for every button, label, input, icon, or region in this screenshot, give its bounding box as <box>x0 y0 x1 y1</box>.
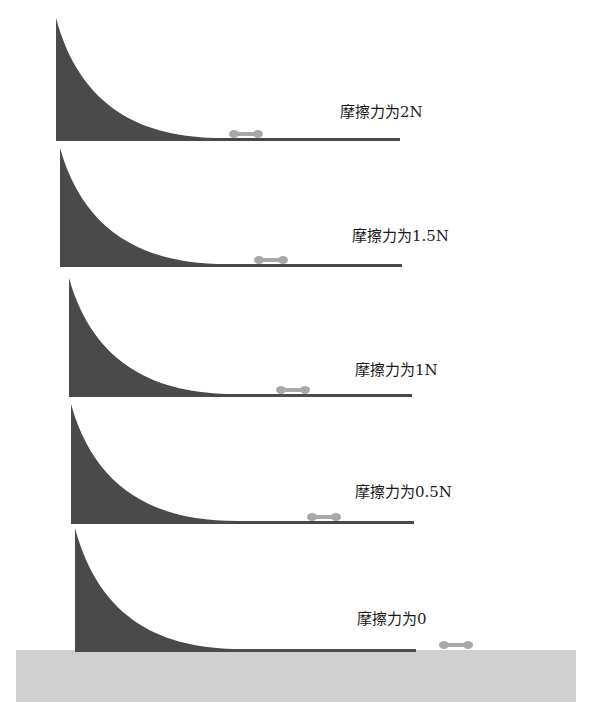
friction-label-0-5n: 摩擦力为0.5N <box>355 480 452 501</box>
car-wheel <box>229 130 239 138</box>
ramp-2 <box>69 278 412 397</box>
car-wheel <box>439 641 449 649</box>
car-wheel <box>307 513 317 521</box>
ramp-3 <box>71 404 414 524</box>
car-wheel <box>331 513 341 521</box>
ground-surface <box>16 650 576 702</box>
ramp-4 <box>75 528 416 652</box>
car-wheel <box>278 256 288 264</box>
ramp-0 <box>56 18 400 141</box>
car-wheel <box>276 386 286 394</box>
friction-label-1n: 摩擦力为1N <box>355 358 438 379</box>
ramp-1 <box>60 148 402 267</box>
car-wheel <box>254 256 264 264</box>
car-wheel <box>463 641 473 649</box>
friction-label-1-5n: 摩擦力为1.5N <box>352 224 449 245</box>
ramp-diagram <box>0 0 596 720</box>
car-wheel <box>300 386 310 394</box>
friction-label-2n: 摩擦力为2N <box>340 100 423 121</box>
friction-label-0: 摩擦力为0 <box>357 607 427 628</box>
car-wheel <box>253 130 263 138</box>
